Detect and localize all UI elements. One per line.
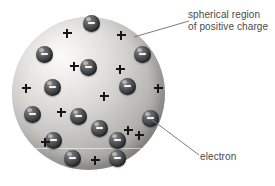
electron-particle [119, 78, 136, 95]
electron-highlight [122, 80, 127, 84]
label-electron: electron [200, 151, 236, 163]
electron-particle [80, 59, 97, 76]
electron-highlight [94, 122, 99, 126]
electron-particle [134, 46, 151, 63]
electron-highlight [145, 112, 150, 116]
label-positive-line2: of positive charge [188, 21, 268, 33]
positive-charge-plus-icon [91, 156, 100, 165]
electron-particle [64, 150, 81, 167]
electron-highlight [112, 152, 117, 156]
label-positive-line1: spherical region [188, 9, 268, 21]
electron-highlight [67, 152, 72, 156]
electron-highlight [47, 81, 52, 85]
electron-particle [36, 46, 53, 63]
electron-highlight [137, 48, 142, 52]
positive-region-leader [134, 21, 189, 37]
electron-highlight [73, 110, 78, 114]
electron-highlight [83, 61, 88, 65]
positive-charge-plus-icon [124, 126, 133, 135]
electron-particle [109, 150, 126, 167]
electron-highlight [27, 108, 32, 112]
electron-highlight [86, 17, 91, 21]
electron-highlight [112, 134, 117, 138]
electron-particle [70, 108, 87, 125]
label-spherical-region-of-positive-charge: spherical region of positive charge [188, 9, 268, 32]
electron-particle [142, 110, 159, 127]
positive-charge-plus-icon [41, 138, 50, 147]
positive-charge-plus-icon [22, 84, 31, 93]
electron-particle [24, 106, 41, 123]
electron-particle [44, 79, 61, 96]
electron-particle [91, 120, 108, 137]
positive-charge-plus-icon [100, 92, 109, 101]
positive-charge-plus-icon [116, 65, 125, 74]
positive-charge-plus-icon [63, 29, 72, 38]
atom-diagram: spherical region of positive charge elec… [0, 0, 275, 186]
positive-charge-plus-icon [135, 131, 144, 140]
electron-highlight [39, 48, 44, 52]
positive-charge-plus-icon [70, 62, 79, 71]
positive-charge-plus-icon [154, 84, 163, 93]
positive-charge-plus-icon [117, 31, 126, 40]
positive-charge-sphere [12, 17, 165, 170]
electron-particle [83, 15, 100, 32]
positive-charge-plus-icon [57, 108, 66, 117]
